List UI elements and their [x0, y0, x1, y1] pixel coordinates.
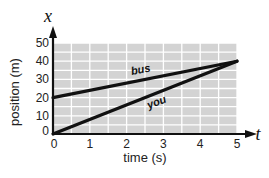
- x-tick-label: 0: [51, 137, 58, 151]
- x-tick-label: 3: [160, 137, 167, 151]
- y-tick-label: 30: [36, 72, 50, 86]
- x-tick-label: 2: [123, 137, 130, 151]
- y-axis-variable: x: [43, 6, 52, 26]
- position-time-chart: busyou 01234501020304050 x t time (s) po…: [0, 0, 269, 178]
- y-tick-label: 0: [42, 124, 49, 138]
- y-axis-arrow-icon: [49, 26, 57, 38]
- x-tick-label: 5: [234, 137, 241, 151]
- x-tick-label: 4: [197, 137, 204, 151]
- y-tick-label: 50: [36, 36, 50, 50]
- x-tick-label: 1: [86, 137, 93, 151]
- x-axis-label: time (s): [123, 150, 166, 165]
- y-tick-label: 40: [36, 54, 50, 68]
- y-tick-label: 20: [36, 91, 50, 105]
- y-axis-label: position (m): [7, 58, 22, 126]
- y-tick-label: 10: [36, 109, 50, 123]
- x-axis-variable: t: [255, 124, 261, 144]
